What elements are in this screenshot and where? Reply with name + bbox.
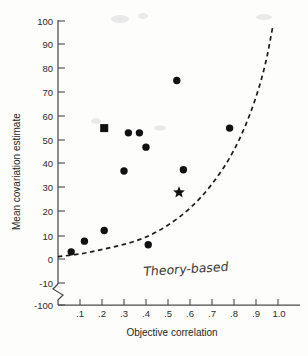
x-axis: .1 .2 .3 .4 .5 .6 .7 .8 .9 1.0 Objective… (58, 299, 300, 338)
y-tick-label-70: 70 (42, 87, 53, 98)
y-tick-label-100: 100 (37, 16, 53, 27)
data-point-circle (68, 248, 75, 255)
data-point-circle (145, 241, 152, 248)
x-tick-label-0-2: .2 (98, 308, 106, 319)
x-tick-label-0-4: .4 (142, 308, 150, 319)
data-point-square (100, 124, 108, 132)
x-tick-label-0-3: .3 (120, 308, 128, 319)
data-point-circle (180, 166, 187, 173)
theory-based-curve (58, 28, 273, 256)
y-axis: 100 90 80 70 60 50 40 30 20 10 0 -10 -10… (11, 16, 65, 311)
y-tick-label-80: 80 (42, 63, 53, 74)
theory-based-annotation: Theory-based (142, 259, 230, 279)
x-tick-label-0-1: .1 (76, 308, 84, 319)
data-marker-layer (68, 77, 234, 256)
data-point-circle (173, 77, 180, 84)
x-tick-marks (80, 299, 278, 305)
y-tick-marks (58, 21, 65, 305)
data-point-circle (81, 237, 88, 244)
theory-curve-layer (58, 28, 273, 256)
y-tick-label-90: 90 (42, 39, 53, 50)
y-tick-label-50: 50 (42, 135, 53, 146)
scan-artifacts (91, 13, 272, 131)
x-axis-title: Objective correlation (126, 327, 217, 338)
x-tick-label-0-5: .5 (164, 308, 172, 319)
x-tick-label-1-0: 1.0 (272, 308, 285, 319)
y-tick-label-60: 60 (42, 111, 53, 122)
x-tick-label-0-8: .8 (230, 308, 238, 319)
y-tick-label-30: 30 (42, 182, 53, 193)
y-tick-label-0: 0 (48, 254, 53, 265)
data-point-circle (101, 227, 108, 234)
y-axis-title: Mean covariation estimate (11, 113, 22, 230)
x-tick-label-0-9: .9 (252, 308, 260, 319)
data-point-circle (136, 129, 143, 136)
plot-canvas: 100 90 80 70 60 50 40 30 20 10 0 -10 -10… (0, 0, 308, 356)
y-tick-label-neg10: -10 (39, 278, 53, 289)
data-point-circle (120, 167, 127, 174)
y-tick-label-40: 40 (42, 158, 53, 169)
x-tick-label-0-6: .6 (186, 308, 194, 319)
scatter-plot-figure: 100 90 80 70 60 50 40 30 20 10 0 -10 -10… (0, 0, 308, 356)
y-tick-label-10: 10 (42, 231, 53, 242)
data-point-circle (142, 143, 149, 150)
data-point-star (173, 186, 185, 197)
x-tick-label-0-7: .7 (208, 308, 216, 319)
data-point-circle (125, 129, 132, 136)
data-point-circle (226, 124, 233, 131)
y-tick-label-20: 20 (42, 206, 53, 217)
y-tick-label-neg100: -100 (34, 300, 53, 311)
